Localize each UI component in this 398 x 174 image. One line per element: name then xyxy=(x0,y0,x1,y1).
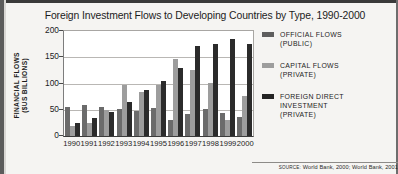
x-tick-label: 1991 xyxy=(80,139,97,151)
legend-label-fdi: FOREIGN DIRECT INVESTMENT (PRIVATE) xyxy=(280,92,344,120)
bar-group xyxy=(150,31,167,136)
y-tick-mark xyxy=(59,109,63,110)
x-tick-label: 1994 xyxy=(132,139,149,151)
y-axis-title-line2: ($US BILLIONS) xyxy=(21,58,28,113)
x-tick-label: 1990 xyxy=(63,139,80,151)
source-text: World Bank, 2000; World Bank, 2001 xyxy=(303,164,398,170)
chart-title: Foreign Investment Flows to Developing C… xyxy=(40,10,370,21)
y-tick-label: 150 xyxy=(29,51,59,61)
bar-group xyxy=(81,31,98,136)
legend-label-fdi-line1: FOREIGN DIRECT xyxy=(280,93,344,100)
y-tick-label: 0 xyxy=(29,130,59,140)
bar-group xyxy=(184,31,201,136)
legend-label-capital-line2: (PRIVATE) xyxy=(280,70,339,79)
source-label: SOURCE: xyxy=(279,165,301,170)
legend-swatch-capital-icon xyxy=(262,63,274,68)
bar-fdi[interactable] xyxy=(178,68,183,136)
x-tick-label: 2000 xyxy=(237,139,254,151)
x-tick-label: 1996 xyxy=(167,139,184,151)
bar-fdi[interactable] xyxy=(247,44,252,136)
x-tick-label: 1992 xyxy=(98,139,115,151)
y-tick-mark xyxy=(59,30,63,31)
x-tick-label: 1999 xyxy=(219,139,236,151)
bar-group xyxy=(167,31,184,136)
chart-page: Foreign Investment Flows to Developing C… xyxy=(0,0,398,174)
bar-fdi[interactable] xyxy=(92,118,97,136)
y-tick-mark xyxy=(59,83,63,84)
legend-label-official-line1: OFFICIAL FLOWS xyxy=(280,31,342,38)
bar-group xyxy=(133,31,150,136)
legend-swatch-official-icon xyxy=(262,32,274,37)
chart-card: Foreign Investment Flows to Developing C… xyxy=(6,3,396,174)
x-tick-label: 1998 xyxy=(202,139,219,151)
legend-item-fdi[interactable]: FOREIGN DIRECT INVESTMENT (PRIVATE) xyxy=(262,92,394,120)
bar-fdi[interactable] xyxy=(75,123,80,136)
bar-group xyxy=(236,31,253,136)
y-tick-label: 100 xyxy=(29,78,59,88)
legend-label-capital: CAPITAL FLOWS (PRIVATE) xyxy=(280,61,339,80)
bar-fdi[interactable] xyxy=(213,44,218,136)
source-line: SOURCE: World Bank, 2000; World Bank, 20… xyxy=(252,164,398,170)
source-rule xyxy=(252,162,398,163)
legend-item-official[interactable]: OFFICIAL FLOWS (PUBLIC) xyxy=(262,30,394,49)
legend-swatch-fdi-icon xyxy=(262,94,274,99)
bar-fdi[interactable] xyxy=(161,81,166,136)
bar-fdi[interactable] xyxy=(195,46,200,136)
y-tick-mark xyxy=(59,56,63,57)
legend-label-capital-line1: CAPITAL FLOWS xyxy=(280,62,339,69)
legend-label-official-line2: (PUBLIC) xyxy=(280,39,342,48)
x-tick-label: 1995 xyxy=(150,139,167,151)
bar-group xyxy=(64,31,81,136)
legend-label-fdi-line3: (PRIVATE) xyxy=(280,110,344,119)
y-tick-label: 200 xyxy=(29,25,59,35)
bars-layer xyxy=(64,31,253,136)
bar-group xyxy=(98,31,115,136)
bar-group xyxy=(219,31,236,136)
bar-fdi[interactable] xyxy=(144,90,149,136)
bar-fdi[interactable] xyxy=(109,112,114,136)
bar-fdi[interactable] xyxy=(127,102,132,136)
x-axis-labels: 1990199119921993199419951996199719981999… xyxy=(63,139,254,151)
legend-item-capital[interactable]: CAPITAL FLOWS (PRIVATE) xyxy=(262,61,394,80)
bar-group xyxy=(116,31,133,136)
x-tick-label: 1993 xyxy=(115,139,132,151)
bar-group xyxy=(202,31,219,136)
y-tick-label: 50 xyxy=(29,104,59,114)
chart-legend: OFFICIAL FLOWS (PUBLIC) CAPITAL FLOWS (P… xyxy=(262,30,394,132)
y-tick-mark xyxy=(59,135,63,136)
bar-fdi[interactable] xyxy=(230,39,235,136)
legend-label-fdi-line2: INVESTMENT xyxy=(280,101,344,110)
y-axis-title-line1: FINANCIAL FLOWS xyxy=(13,52,20,118)
x-tick-label: 1997 xyxy=(185,139,202,151)
legend-label-official: OFFICIAL FLOWS (PUBLIC) xyxy=(280,30,342,49)
